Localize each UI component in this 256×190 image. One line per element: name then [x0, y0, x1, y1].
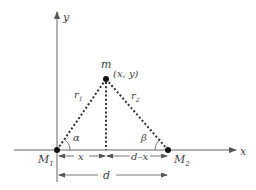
- y-axis-label: y: [62, 11, 70, 24]
- point-M2: [165, 147, 171, 153]
- M1-label: M1: [37, 153, 54, 168]
- point-M1: [54, 147, 60, 153]
- r1-line: [57, 79, 106, 150]
- point-m: [103, 76, 109, 82]
- x-axis-label: x: [240, 145, 247, 158]
- alpha-arc: [65, 140, 71, 151]
- dim-x-label: x: [78, 151, 84, 162]
- r2-label: r2: [131, 90, 140, 103]
- beta-arc: [155, 140, 161, 151]
- r2-line: [106, 79, 168, 150]
- m-label: m: [101, 58, 111, 71]
- two-mass-geometry-diagram: x y m (x, y) M1 M2 r1 r2 α β x d–x d: [0, 0, 256, 190]
- dim-d-label: d: [103, 169, 110, 182]
- M2-label: M2: [173, 153, 190, 168]
- r1-label: r1: [74, 89, 83, 102]
- m-coords-label: (x, y): [113, 68, 139, 79]
- beta-label: β: [140, 132, 147, 143]
- alpha-label: α: [73, 132, 80, 143]
- dim-dx-label: d–x: [131, 151, 148, 162]
